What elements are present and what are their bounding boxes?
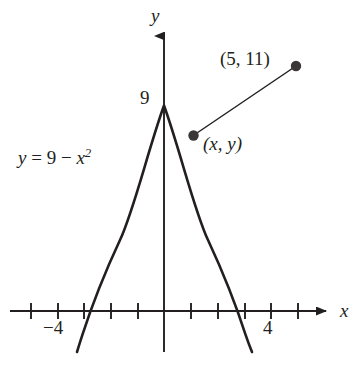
x-tick-label-four: 4 <box>263 318 273 337</box>
curve-point-marker <box>188 130 198 140</box>
equation-label: y = 9 − x2 <box>18 147 91 167</box>
x-axis-label: x <box>340 301 348 320</box>
x-tick-label-negative-four: −4 <box>43 318 63 337</box>
equation-constant: 9 <box>47 147 57 168</box>
equation-minus-sign: − <box>61 147 72 168</box>
external-point-label: (5, 11) <box>220 49 270 68</box>
y-axis-label: y <box>151 6 159 25</box>
y-intercept-label: 9 <box>140 88 150 107</box>
external-point-marker <box>291 61 301 71</box>
equation-exponent: 2 <box>85 145 91 160</box>
parabola-figure: y x 9 −4 4 y = 9 − x2 (5, 11) (x, y) <box>0 0 360 383</box>
equation-eq-sign: = <box>31 147 42 168</box>
connector-segment <box>194 66 296 135</box>
equation-variable: x <box>76 147 84 168</box>
curve-point-label: (x, y) <box>203 134 242 153</box>
